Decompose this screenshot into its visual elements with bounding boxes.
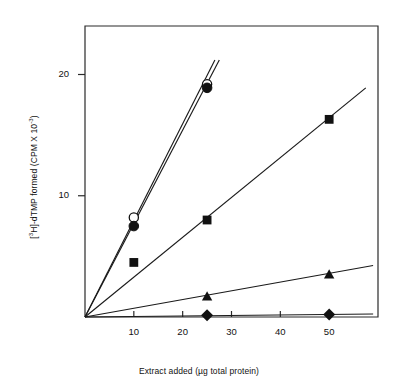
x-tick-label: 50 <box>316 326 342 337</box>
fit-line-open-circle-series <box>85 60 215 317</box>
marker-filled-diamond <box>323 309 335 321</box>
x-tick-label: 40 <box>267 326 293 337</box>
y-axis-ticks <box>78 75 85 196</box>
y-axis-title: [3H]-dTMP formed (CPM X 10-3) <box>29 77 39 277</box>
x-axis-title: Extract added (µg total protein) <box>0 366 398 376</box>
x-tick-label: 10 <box>121 326 147 337</box>
x-tick-label: 20 <box>170 326 196 337</box>
marker-filled-square <box>129 258 138 267</box>
plot-frame <box>85 26 378 317</box>
fit-line-filled-circle-series <box>85 60 219 317</box>
marker-filled-diamond <box>201 309 213 321</box>
chart-figure: [3H]-dTMP formed (CPM X 10-3) Extract ad… <box>0 0 398 383</box>
y-tick-label: 10 <box>43 189 69 200</box>
x-tick-label: 30 <box>219 326 245 337</box>
marker-filled-square <box>325 115 334 124</box>
fit-line-filled-square-series <box>85 88 366 317</box>
y-tick-label: 20 <box>43 68 69 79</box>
x-axis-title-text: Extract added (µg total protein) <box>139 366 259 376</box>
frame-border <box>85 26 378 317</box>
data-markers <box>129 80 335 322</box>
marker-filled-circle <box>129 221 139 231</box>
marker-filled-circle <box>202 83 212 93</box>
y-axis-title-text: [3H]-dTMP formed (CPM X 10-3) <box>29 115 39 239</box>
marker-filled-square <box>203 216 212 225</box>
